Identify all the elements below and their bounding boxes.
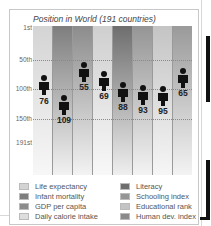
y-tick-50th: 50th	[0, 56, 33, 63]
legend-item: Daily calorie intake	[19, 212, 98, 222]
legend-item: Life expectancy	[19, 182, 87, 192]
legend-swatch	[120, 193, 130, 200]
legend-swatch	[19, 193, 29, 200]
person-icon	[58, 95, 70, 115]
legend-item: Literacy	[120, 182, 162, 192]
legend-item: GDP per capita	[19, 202, 86, 212]
value-label: 55	[73, 82, 95, 92]
legend-item: Human dev. index	[120, 212, 196, 222]
y-tick-150th: 150th	[0, 115, 33, 122]
person-icon	[98, 71, 110, 91]
y-tick-191st: 191st	[0, 139, 33, 146]
legend-swatch	[120, 203, 130, 210]
legend-swatch	[19, 203, 29, 210]
legend-item: Schooling index	[120, 192, 189, 202]
value-label: 93	[132, 105, 154, 115]
scrollbar-thumb[interactable]	[206, 36, 210, 102]
value-label: 65	[172, 88, 194, 98]
column-human-dev-index	[173, 26, 192, 175]
scrollbar-thumb-lower[interactable]	[206, 160, 210, 220]
bracket-foot	[200, 217, 210, 220]
person-icon	[157, 86, 169, 106]
legend-item: Infant mortality	[19, 192, 84, 202]
legend-swatch	[120, 183, 130, 190]
chart-title: Position in World (191 countries)	[33, 14, 156, 24]
person-icon	[78, 62, 90, 82]
person-icon	[137, 85, 149, 105]
y-tick-100th: 100th	[0, 85, 33, 92]
value-label: 88	[112, 102, 134, 112]
legend-swatch	[120, 213, 130, 220]
y-tick-1st: 1st	[0, 24, 33, 31]
column-gdp-per-capita	[73, 26, 93, 175]
value-label: 95	[152, 106, 174, 116]
value-label: 76	[33, 96, 55, 106]
legend-swatch	[19, 213, 29, 220]
person-icon	[177, 68, 189, 88]
page-edge-line	[201, 0, 202, 226]
value-label: 69	[93, 91, 115, 101]
person-icon	[38, 75, 50, 95]
gridline-50th	[33, 60, 192, 61]
legend-item: Educational rank	[120, 202, 192, 212]
value-label: 109	[53, 115, 75, 125]
person-icon	[117, 82, 129, 102]
legend-swatch	[19, 183, 29, 190]
